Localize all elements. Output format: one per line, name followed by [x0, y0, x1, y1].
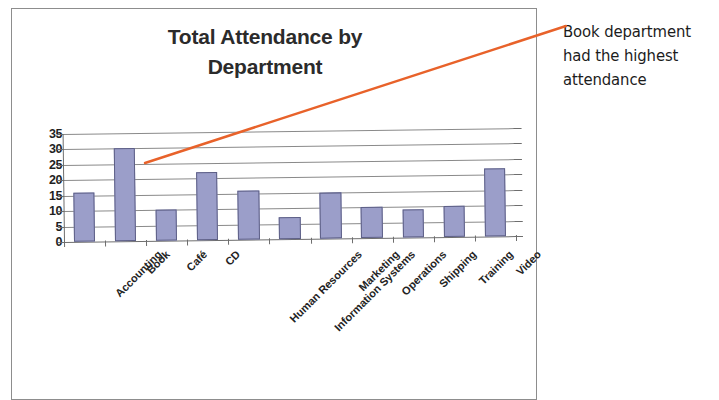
x-axis-label-cd: CD	[222, 248, 242, 268]
bar-operations	[361, 207, 383, 238]
plot-area	[64, 134, 516, 242]
x-tick-10	[475, 236, 476, 242]
bar-marketing	[320, 192, 342, 239]
y-tick-right-5	[515, 221, 523, 222]
x-tick-5	[269, 238, 270, 244]
x-tick-9	[434, 236, 435, 242]
bar-café	[156, 210, 178, 241]
chart-title-line-1: Total Attendance by	[60, 22, 470, 52]
x-tick-6	[310, 238, 311, 244]
y-tick-35	[57, 134, 64, 135]
x-axis-label-training: Training	[477, 248, 516, 287]
y-tick-right-15	[514, 190, 522, 191]
y-tick-20	[57, 180, 64, 181]
x-axis-label-book: Book	[144, 248, 172, 276]
y-tick-right-25	[514, 159, 522, 160]
x-tick-7	[352, 237, 353, 243]
x-axis-label-café: Café	[184, 248, 209, 273]
y-tick-25	[57, 165, 64, 166]
annotation-line-1: Book department	[563, 20, 715, 44]
x-axis-category-labels: AccountingBookCaféCDHuman ResourcesInfor…	[64, 246, 524, 366]
bar-accounting	[73, 192, 95, 242]
bar-training	[443, 206, 465, 237]
y-tick-30	[57, 149, 64, 150]
y-tick-10	[58, 211, 65, 212]
y-tick-right-35	[514, 128, 522, 129]
y-tick-right-30	[514, 143, 522, 144]
plot-inner	[63, 128, 516, 242]
y-tick-right-20	[514, 174, 522, 175]
chart-title-line-2: Department	[60, 52, 470, 82]
bar-cd	[196, 172, 218, 240]
x-tick-4	[228, 239, 229, 245]
x-tick-8	[393, 237, 394, 243]
annotation-line-2: had the highest	[563, 44, 715, 68]
bar-human-resources	[238, 190, 260, 240]
x-tick-3	[187, 239, 188, 245]
annotation-line-3: attendance	[563, 68, 715, 92]
y-tick-15	[57, 196, 64, 197]
bar-book	[114, 148, 137, 241]
bar-video	[484, 168, 506, 236]
y-tick-5	[58, 227, 65, 228]
bar-shipping	[402, 210, 424, 238]
y-tick-right-10	[515, 205, 523, 206]
annotation-callout: Book department had the highest attendan…	[563, 20, 715, 92]
x-tick-11	[516, 235, 517, 241]
chart-title: Total Attendance by Department	[60, 22, 470, 83]
bar-information-systems	[279, 217, 301, 239]
